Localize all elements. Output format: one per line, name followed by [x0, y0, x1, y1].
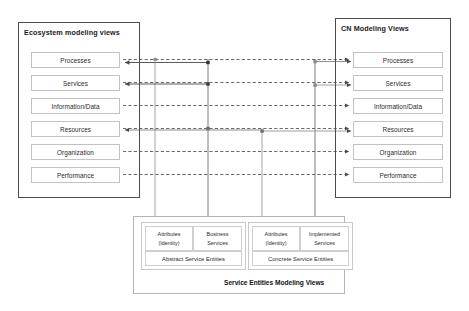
- concrete-service-entities-caption: Concrete Service Entities: [252, 251, 349, 266]
- abstract-service-entities-caption-label: Abstract Service Entities: [162, 256, 225, 262]
- left-view-organization-label: Organization: [57, 149, 94, 156]
- concrete-attributes-line2: (Identity): [266, 239, 287, 247]
- abstract-business-services-line1: Business: [207, 230, 229, 238]
- right-view-organization-label: Organization: [380, 149, 417, 156]
- right-view-organization[interactable]: Organization: [353, 144, 443, 160]
- left-view-performance-label: Performance: [57, 172, 94, 179]
- right-view-information-data[interactable]: Information/Data: [353, 98, 443, 114]
- right-view-performance[interactable]: Performance: [353, 167, 443, 183]
- right-view-processes[interactable]: Processes: [353, 52, 443, 68]
- concrete-service-entities-caption-label: Concrete Service Entities: [268, 256, 333, 262]
- concrete-implemented-services-cell[interactable]: Implemented Services: [300, 226, 349, 251]
- left-view-processes[interactable]: Processes: [31, 52, 120, 68]
- diagram-canvas: Ecosystem modeling views Processes Servi…: [0, 0, 469, 311]
- left-view-information-data[interactable]: Information/Data: [31, 98, 120, 114]
- right-view-information-data-label: Information/Data: [374, 103, 422, 110]
- concrete-implemented-services-line1: Implemented: [309, 230, 340, 238]
- cn-panel-title: CN Modeling Views: [341, 24, 409, 33]
- left-view-resources-label: Resources: [60, 126, 91, 133]
- ecosystem-panel-title: Ecosystem modeling views: [24, 28, 120, 37]
- abstract-attributes-line2: (Identity): [159, 239, 180, 247]
- left-view-performance[interactable]: Performance: [31, 167, 120, 183]
- concrete-implemented-services-line2: Services: [314, 239, 335, 247]
- concrete-attributes-cell[interactable]: Attributes (Identity): [252, 226, 300, 251]
- abstract-service-entities-caption: Abstract Service Entities: [145, 251, 242, 266]
- left-view-organization[interactable]: Organization: [31, 144, 120, 160]
- left-view-information-data-label: Information/Data: [51, 103, 99, 110]
- junction-dots: [154, 58, 317, 133]
- abstract-business-services-cell[interactable]: Business Services: [193, 226, 242, 251]
- abstract-business-services-line2: Services: [207, 239, 228, 247]
- service-entities-modeling-views-caption: Service Entities Modeling Views: [224, 279, 324, 286]
- left-view-resources[interactable]: Resources: [31, 121, 120, 137]
- right-view-resources[interactable]: Resources: [353, 121, 443, 137]
- abstract-attributes-cell[interactable]: Attributes (Identity): [145, 226, 193, 251]
- left-view-services[interactable]: Services: [31, 75, 120, 91]
- concrete-attributes-line1: Attributes: [265, 230, 288, 238]
- right-view-performance-label: Performance: [379, 172, 416, 179]
- right-view-processes-label: Processes: [383, 57, 413, 64]
- right-view-services[interactable]: Services: [353, 75, 443, 91]
- right-view-services-label: Services: [386, 80, 411, 87]
- left-view-services-label: Services: [63, 80, 88, 87]
- left-view-processes-label: Processes: [60, 57, 90, 64]
- abstract-attributes-line1: Attributes: [158, 230, 181, 238]
- right-view-resources-label: Resources: [383, 126, 414, 133]
